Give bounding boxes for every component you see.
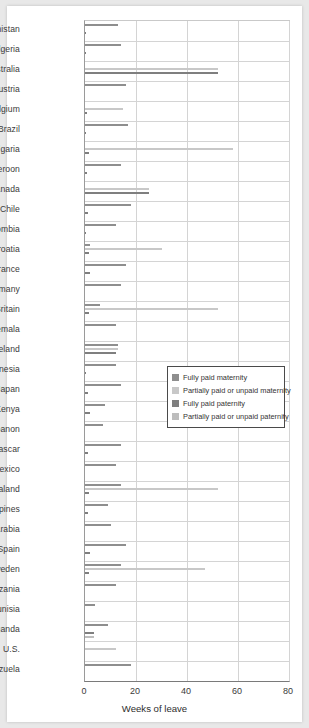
bar-group: [85, 301, 289, 322]
x-axis-tick-label: 80: [268, 686, 308, 696]
bar: [85, 412, 90, 415]
bar: [85, 108, 123, 111]
bar-group: [85, 121, 289, 142]
x-axis-tick-label: 60: [217, 686, 257, 696]
y-axis-label: Germany: [0, 284, 20, 294]
y-axis-label: Belgium: [0, 104, 20, 114]
bar: [85, 148, 233, 151]
y-axis-label: Austria: [0, 84, 20, 94]
bar-group: [85, 241, 289, 262]
bar-group: [85, 641, 289, 662]
bar-group: [85, 321, 289, 342]
legend-swatch-icon: [172, 413, 179, 420]
bar: [85, 352, 116, 355]
bar: [85, 636, 94, 639]
y-axis-label: Uganda: [0, 624, 20, 634]
bar: [85, 452, 88, 455]
bar: [85, 284, 121, 287]
legend-item: Fully paid maternity: [172, 371, 280, 384]
bar: [85, 52, 86, 55]
bar: [85, 248, 162, 251]
legend-label: Fully paid maternity: [183, 373, 247, 382]
x-axis-tick-label: 0: [64, 686, 104, 696]
bar: [85, 564, 121, 567]
bar: [85, 164, 121, 167]
bar: [85, 224, 116, 227]
legend-label: Partially paid or unpaid paternity: [183, 412, 289, 421]
bar: [85, 604, 95, 607]
bar-group: [85, 561, 289, 582]
bar: [85, 188, 149, 191]
chart-card: AfghanistanAlgeriaAustraliaAustriaBelgiu…: [7, 6, 302, 722]
bar-group: [85, 481, 289, 502]
bar-group: [85, 461, 289, 482]
y-axis-label: Bulgaria: [0, 144, 20, 154]
bar: [85, 264, 126, 267]
bar: [85, 172, 87, 175]
bar: [85, 664, 131, 667]
bar: [85, 324, 116, 327]
bar: [85, 544, 126, 547]
bar: [85, 524, 111, 527]
bar: [85, 124, 128, 127]
y-axis-label: Venezuela: [0, 664, 20, 674]
bar: [85, 348, 118, 351]
y-axis-label: Tanzania: [0, 584, 20, 594]
bar: [85, 68, 218, 71]
bar: [85, 44, 121, 47]
bar-chart: AfghanistanAlgeriaAustraliaAustriaBelgiu…: [7, 6, 302, 722]
bar-group: [85, 161, 289, 182]
bar: [85, 212, 88, 215]
y-axis-label: Madagascar: [0, 444, 20, 454]
bar-group: [85, 601, 289, 622]
bar-group: [85, 581, 289, 602]
bar: [85, 72, 218, 75]
bar-group: [85, 501, 289, 522]
bar: [85, 584, 116, 587]
x-axis-tick-label: 40: [166, 686, 206, 696]
bar: [85, 204, 131, 207]
bar: [85, 272, 90, 275]
y-axis-label: Algeria: [0, 44, 20, 54]
x-axis-title: Weeks of leave: [7, 703, 302, 714]
bar: [85, 244, 90, 247]
bar: [85, 624, 108, 627]
bar-group: [85, 541, 289, 562]
y-axis-label: Croatia: [0, 244, 20, 254]
bar-group: [85, 81, 289, 102]
legend-swatch-icon: [172, 400, 179, 407]
bar: [85, 132, 86, 135]
y-axis-label: Brazil: [0, 124, 20, 134]
bar-group: [85, 621, 289, 642]
y-axis-label: Japan: [0, 384, 20, 394]
y-axis-label: Indonesia: [0, 364, 20, 374]
bar: [85, 648, 116, 651]
bar-group: [85, 101, 289, 122]
y-axis-label: Canada: [0, 184, 20, 194]
x-axis-tick-label: 20: [115, 686, 155, 696]
bar: [85, 484, 121, 487]
bar-group: [85, 141, 289, 162]
bar: [85, 364, 116, 367]
legend-swatch-icon: [172, 374, 179, 381]
y-axis-label: Saudi Arabia: [0, 524, 20, 534]
bar: [85, 572, 89, 575]
bar: [85, 252, 89, 255]
bar: [85, 488, 218, 491]
y-axis-label: Sweden: [0, 564, 20, 574]
legend-item: Partially paid or unpaid paternity: [172, 410, 280, 423]
y-axis-label: Iceland: [0, 344, 20, 354]
bar-group: [85, 221, 289, 242]
y-axis-label: Lebanon: [0, 424, 20, 434]
bar: [85, 192, 149, 195]
y-axis-label: Mexico: [0, 464, 20, 474]
y-axis-label: Chile: [0, 204, 20, 214]
legend-label: Partially paid or unpaid maternity: [183, 386, 291, 395]
bar: [85, 308, 218, 311]
legend-swatch-icon: [172, 387, 179, 394]
bar-group: [85, 41, 289, 62]
bar-group: [85, 181, 289, 202]
y-axis-label: U.S.: [3, 644, 20, 654]
bar-group: [85, 201, 289, 222]
bar: [85, 372, 86, 375]
